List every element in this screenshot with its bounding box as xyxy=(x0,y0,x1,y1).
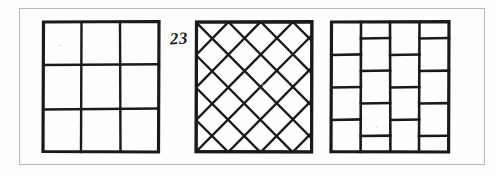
running-bond-drawing xyxy=(328,19,452,155)
figure-diamond-lattice xyxy=(193,19,315,155)
illustration-plate: 23 xyxy=(0,0,497,176)
scan-speck xyxy=(59,45,61,47)
handwritten-annotation: 23 xyxy=(165,25,193,53)
scan-speck xyxy=(376,126,378,128)
figure-running-bond xyxy=(328,19,452,155)
diamond-lattice-drawing xyxy=(193,19,315,155)
scan-speck xyxy=(262,84,264,86)
scan-speck xyxy=(126,98,128,99)
scan-speck xyxy=(206,126,207,128)
scan-speck xyxy=(44,127,46,129)
figure-square-grid xyxy=(40,19,162,155)
square-grid-drawing xyxy=(40,19,162,155)
